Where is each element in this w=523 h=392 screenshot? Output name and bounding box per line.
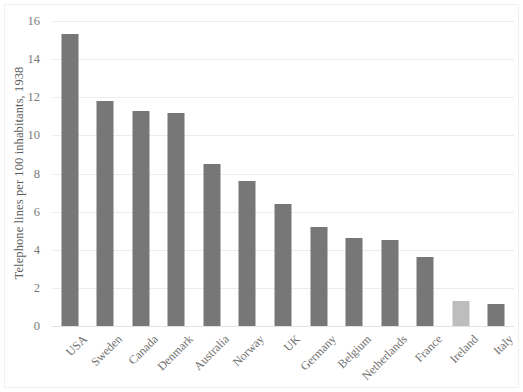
bar-slot	[194, 21, 230, 326]
y-axis-tick-labels: 0246810121416	[0, 21, 46, 326]
bar-france[interactable]	[417, 257, 434, 326]
bar-slot	[230, 21, 266, 326]
bar-denmark[interactable]	[168, 113, 185, 327]
bar-canada[interactable]	[132, 111, 149, 326]
bar-usa[interactable]	[61, 34, 78, 326]
bar-germany[interactable]	[310, 227, 327, 326]
bar-slot	[336, 21, 372, 326]
plot-area	[52, 21, 514, 326]
y-axis-tick-label: 2	[34, 280, 40, 295]
y-axis-tick-label: 14	[28, 52, 41, 67]
bar-slot	[159, 21, 195, 326]
bar-slot	[443, 21, 479, 326]
x-axis-tick-labels: USASwedenCanadaDenmarkAustraliaNorwayUKG…	[52, 326, 514, 392]
bar-italy[interactable]	[488, 304, 505, 326]
y-axis-tick-label: 12	[28, 90, 41, 105]
bar-slot	[407, 21, 443, 326]
bar-sweden[interactable]	[97, 101, 114, 326]
bar-slot	[123, 21, 159, 326]
y-axis-tick-label: 16	[28, 14, 41, 29]
y-axis-tick-label: 8	[34, 166, 40, 181]
y-axis-tick-label: 4	[34, 242, 40, 257]
y-axis-tick-label: 10	[28, 128, 41, 143]
bar-slot	[372, 21, 408, 326]
y-axis-tick-label: 6	[34, 204, 40, 219]
bar-belgium[interactable]	[346, 238, 363, 326]
bars-layer	[52, 21, 514, 326]
bar-ireland[interactable]	[452, 301, 469, 326]
bar-slot	[265, 21, 301, 326]
bar-slot	[301, 21, 337, 326]
bar-slot	[52, 21, 88, 326]
bar-australia[interactable]	[203, 164, 220, 326]
y-axis-tick-label: 0	[34, 319, 40, 334]
bar-chart-figure: Telephone lines per 100 inhabitants, 193…	[0, 0, 523, 392]
bar-uk[interactable]	[274, 204, 291, 326]
bar-slot	[478, 21, 514, 326]
bar-netherlands[interactable]	[381, 240, 398, 326]
bar-slot	[88, 21, 124, 326]
bar-norway[interactable]	[239, 181, 256, 326]
